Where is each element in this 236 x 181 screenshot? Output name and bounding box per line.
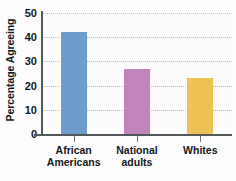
y-axis-tick-label: 20 (25, 80, 37, 91)
y-axis-tick-label: 40 (25, 32, 37, 43)
plot-area (42, 13, 232, 134)
y-axis-tick-labels: 01020304050 (18, 0, 40, 145)
y-axis-title: Percentage Agreeing (0, 0, 20, 140)
bar (187, 78, 213, 134)
y-axis-tick-label: 30 (25, 56, 37, 67)
bar-chart: Percentage Agreeing 01020304050 African … (0, 0, 236, 181)
y-axis-tick-label: 50 (25, 8, 37, 19)
y-axis-tick-label: 10 (25, 104, 37, 115)
x-axis-tick-mark (137, 136, 138, 142)
x-axis-category-label: National adults (105, 144, 168, 168)
x-axis-tick-mark (200, 136, 201, 142)
x-axis-line (34, 134, 232, 136)
x-axis-tick-mark (74, 136, 75, 142)
bar (124, 69, 150, 134)
x-axis-category-label: African Americans (42, 144, 105, 168)
x-axis-category-label: Whites (169, 144, 232, 156)
gridline (42, 13, 232, 14)
bar (61, 32, 87, 134)
y-axis-line (41, 11, 43, 136)
y-axis-title-text: Percentage Agreeing (4, 19, 16, 122)
